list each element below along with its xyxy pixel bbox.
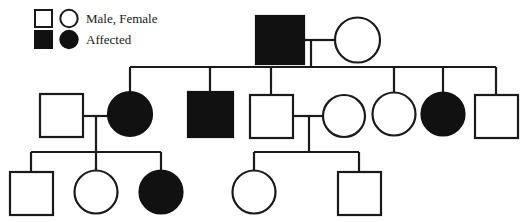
- person-I-1-affected-male-symbol[interactable]: [256, 16, 304, 64]
- person-II-7-affected-female-symbol[interactable]: [422, 93, 465, 136]
- person-III-5-unaffected-male-symbol[interactable]: [338, 172, 381, 215]
- legend-unaffected-circle-icon: [60, 10, 77, 27]
- person-III-2-unaffected-female-symbol[interactable]: [75, 171, 118, 214]
- pedigree-canvas: Male, Female Affected: [0, 0, 525, 222]
- person-III-4-unaffected-female-symbol[interactable]: [233, 171, 276, 214]
- legend-unaffected-square-icon: [35, 10, 52, 27]
- person-II-6-unaffected-female-symbol[interactable]: [373, 93, 416, 136]
- legend-unaffected-label: Male, Female: [86, 11, 158, 26]
- person-II-2-affected-female-symbol[interactable]: [108, 92, 152, 136]
- legend-affected-circle-icon: [60, 31, 77, 48]
- person-II-4-unaffected-male-symbol[interactable]: [250, 95, 293, 138]
- generation-3-symbols: [10, 171, 381, 216]
- person-II-1-unaffected-male-symbol[interactable]: [40, 94, 83, 137]
- pedigree-chart: Male, Female Affected: [0, 0, 525, 222]
- generation-2-symbols: [40, 92, 518, 138]
- person-III-1-unaffected-male-symbol[interactable]: [10, 172, 53, 215]
- legend-row-affected: Affected: [35, 31, 132, 48]
- legend-affected-label: Affected: [86, 32, 132, 47]
- legend: Male, Female Affected: [35, 10, 158, 48]
- person-II-8-unaffected-male-symbol[interactable]: [475, 95, 518, 138]
- legend-row-unaffected: Male, Female: [35, 10, 158, 27]
- person-I-2-unaffected-female-symbol[interactable]: [335, 18, 380, 63]
- person-II-3-affected-male-symbol[interactable]: [188, 92, 233, 137]
- person-II-5-unaffected-female-symbol[interactable]: [323, 95, 365, 137]
- person-III-3-affected-female-symbol[interactable]: [140, 171, 183, 214]
- legend-affected-square-icon: [35, 31, 52, 48]
